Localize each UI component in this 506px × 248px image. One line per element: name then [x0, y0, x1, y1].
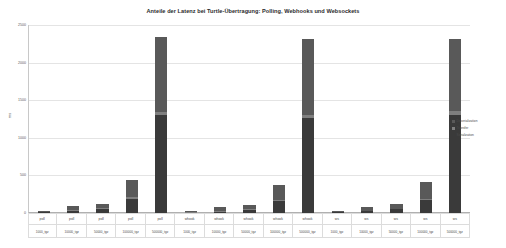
y-tick-label: 0	[4, 211, 26, 215]
legend-item[interactable]: Transfer	[452, 125, 502, 131]
bar-column	[96, 204, 108, 213]
y-axis-title: ms	[7, 113, 12, 118]
legend-label: Deserialization	[457, 119, 478, 123]
legend-item[interactable]: Deserialization	[452, 118, 502, 124]
x-axis-cell: whook1000_tgz	[175, 213, 204, 238]
bar-segment-deserialization	[449, 39, 461, 111]
x-axis-group-label: whook	[234, 213, 262, 225]
x-axis-cell: poll1000_tgz	[28, 213, 57, 238]
bars-layer	[29, 25, 470, 213]
bar-segment-serialization	[126, 199, 138, 213]
x-axis-group-label: ws	[411, 213, 439, 225]
legend-swatch-icon	[452, 127, 455, 130]
x-axis-cell: whook500000_tgz	[293, 213, 322, 238]
x-axis-cell: poll50000_tgz	[87, 213, 116, 238]
bar-column	[390, 204, 402, 213]
x-axis-group-label: whook	[175, 213, 203, 225]
chart-title: Anteile der Latenz bei Turtle-Übertragun…	[0, 8, 506, 14]
y-tick-label: 500	[4, 173, 26, 177]
x-axis-cell: poll500000_tgz	[146, 213, 175, 238]
x-axis-group-label: poll	[87, 213, 115, 225]
x-axis-cell: ws50000_tgz	[382, 213, 411, 238]
bar-segment-serialization	[155, 115, 167, 213]
x-axis-group-label: ws	[352, 213, 380, 225]
legend-item[interactable]: Serialization	[452, 132, 502, 138]
bar-segment-deserialization	[126, 180, 138, 197]
x-axis-group-label: ws	[323, 213, 351, 225]
x-axis-cell: ws100000_tgz	[411, 213, 440, 238]
bar-column	[67, 206, 79, 213]
x-axis-group-label: ws	[441, 213, 469, 225]
bar-segment-deserialization	[273, 185, 285, 200]
bar-segment-serialization	[420, 200, 432, 213]
x-axis-cell: poll10000_tgz	[57, 213, 86, 238]
x-axis-group-label: ws	[382, 213, 410, 225]
bar-column	[243, 205, 255, 213]
legend-swatch-icon	[452, 120, 455, 123]
x-axis-table-bottom-border	[28, 237, 470, 238]
y-tick-label: 1000	[4, 136, 26, 140]
bar-column	[420, 182, 432, 213]
x-axis-group-label: poll	[28, 213, 56, 225]
x-axis-cell: poll100000_tgz	[116, 213, 145, 238]
x-axis-group-label: whook	[293, 213, 321, 225]
x-axis-cell: whook50000_tgz	[234, 213, 263, 238]
bar-segment-deserialization	[302, 39, 314, 115]
x-axis-cell: ws1000_tgz	[323, 213, 352, 238]
bar-segment-serialization	[302, 118, 314, 214]
bar-column	[273, 185, 285, 213]
bar-column	[155, 37, 167, 213]
y-tick-label: 2000	[4, 61, 26, 65]
bar-segment-deserialization	[155, 37, 167, 112]
bar-column	[126, 180, 138, 213]
y-tick-label: 1500	[4, 98, 26, 102]
y-tick-label: 2500	[4, 23, 26, 27]
x-axis-group-label: whook	[264, 213, 292, 225]
bar-column	[302, 39, 314, 213]
x-axis-group-label: poll	[146, 213, 174, 225]
legend-label: Serialization	[457, 133, 474, 137]
x-axis-cell: ws500000_tgz	[441, 213, 470, 238]
x-axis-cell: ws10000_tgz	[352, 213, 381, 238]
x-axis-labels: poll1000_tgzpoll10000_tgzpoll50000_tgzpo…	[28, 213, 470, 238]
x-axis-group-label: poll	[116, 213, 144, 225]
x-axis-cell: whook10000_tgz	[205, 213, 234, 238]
x-axis-cell: whook100000_tgz	[264, 213, 293, 238]
x-axis-group-label: poll	[57, 213, 85, 225]
bar-segment-deserialization	[420, 182, 432, 198]
chart-container: Anteile der Latenz bei Turtle-Übertragun…	[0, 0, 506, 248]
bar-segment-serialization	[273, 201, 285, 213]
chart-legend: DeserializationTransferSerialization	[452, 118, 502, 139]
legend-label: Transfer	[457, 126, 469, 130]
legend-swatch-icon	[452, 134, 455, 137]
x-axis-group-label: whook	[205, 213, 233, 225]
